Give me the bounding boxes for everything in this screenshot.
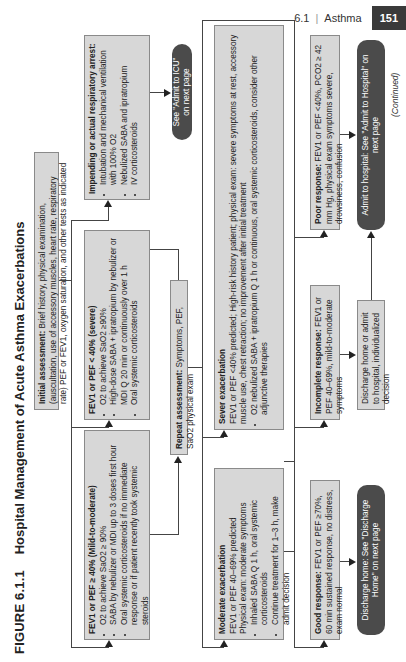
impending-arrest-box: Impending or actual respiratory arrest: … <box>84 35 150 200</box>
impending-arrest-heading: Impending or actual respiratory arrest: <box>88 43 97 194</box>
poor-response-heading: Poor response: <box>314 164 323 224</box>
mild-moderate-item: SABA by nebulizer or MDI up to 3 doses f… <box>109 436 120 625</box>
severe-heading: FEV1 or PEF < 40% (severe) <box>88 305 97 414</box>
severe-box: FEV1 or PEF < 40% (severe) O2 to achieve… <box>84 230 150 420</box>
severe-exacerbation-box: Sever exacerbation FEV1 or PEF <40% pred… <box>214 25 284 430</box>
mild-moderate-heading: FEV1 or PEF ≥ 40% (Mild-to-moderate) <box>88 485 97 634</box>
arrow-icon <box>320 640 328 647</box>
good-response-heading: Good response: <box>314 571 323 634</box>
arrow-icon <box>220 640 228 647</box>
initial-assessment-box: Initial assessment: Brief history, physi… <box>34 152 59 410</box>
admit-icu-terminal: See "Admit to ICU" on next page <box>172 44 192 140</box>
figure-caption: Hospital Management of Acute Asthma Exac… <box>12 222 27 555</box>
connector <box>202 20 294 21</box>
arrow-icon <box>105 420 113 427</box>
arrow-icon <box>174 456 182 463</box>
incomplete-response-heading: Incomplete response: <box>314 329 323 414</box>
repeat-assessment-heading: Repeat assessment: <box>175 370 184 449</box>
connector <box>294 647 324 648</box>
discharge-home-terminal: Discharge home: See "Discharge Home" on … <box>357 485 385 635</box>
figure-label: FIGURE 6.1.1 <box>12 570 27 654</box>
severe-exacerbation-line: FEV1 or PEF <40% predicted; High-risk hi… <box>229 35 249 424</box>
moderate-exacerbation-box: Moderate exacerbation FEV1 or PEF 40–69%… <box>214 468 284 640</box>
severe-item: Oral systemic corticosteroids <box>130 236 141 405</box>
initial-assessment-heading: Initial assessment: <box>38 331 47 404</box>
arrow-icon <box>349 131 356 139</box>
continued-label: (Continued) <box>390 73 400 117</box>
mild-moderate-box: FEV1 or PEF ≥ 40% (Mild-to-moderate) O2 … <box>84 430 150 640</box>
poor-response-box: Poor response: FEV1 or PEF <40%, PCO2 ≥ … <box>310 35 340 230</box>
connector <box>294 20 295 648</box>
connector <box>178 463 179 535</box>
arrow-icon <box>320 230 328 237</box>
connector <box>188 367 202 368</box>
connector <box>150 534 178 535</box>
flowchart: FIGURE 6.1.1 Hospital Management of Acut… <box>0 0 406 662</box>
discharge-or-admit-text: Discharge home or admit to hospital, ind… <box>361 313 391 404</box>
moderate-exacerbation-item: Continue treatment for 1–3 h, make admit… <box>271 474 292 625</box>
impending-arrest-item: IV corticosteroids <box>130 41 141 185</box>
connector <box>150 92 165 93</box>
mild-moderate-item: Oral systemic corticosteroids if no imme… <box>120 436 152 625</box>
connector <box>71 220 72 648</box>
impending-arrest-item: Intubation and mechanical ventilation wi… <box>99 41 120 185</box>
severe-item: High-dose SABA + ipratropium by nebulize… <box>109 236 130 405</box>
arrow-icon <box>349 351 356 359</box>
connector <box>294 427 324 428</box>
arrow-icon <box>320 420 328 427</box>
moderate-exacerbation-item: Inhaled SABA Q 1 h, oral systemic cortic… <box>250 474 271 625</box>
connector <box>202 437 224 438</box>
good-response-box: Good response: FEV1 or PEF ≥70%, 60 min … <box>310 480 340 640</box>
moderate-exacerbation-line: Physical exam: moderate symptoms <box>239 503 248 635</box>
connector <box>108 207 109 221</box>
discharge-home-text: Discharge home: See "Discharge Home" on … <box>361 493 382 627</box>
arrow-icon <box>105 640 113 647</box>
figure-title: FIGURE 6.1.1 Hospital Management of Acut… <box>12 222 27 654</box>
severe-exacerbation-item: O2 nebulized SABA + ipratropium Q 1 h or… <box>250 31 271 415</box>
connector <box>178 249 179 280</box>
connector <box>71 220 109 221</box>
arrow-icon <box>367 231 375 238</box>
arrow-icon <box>104 200 112 207</box>
arrow-icon <box>164 89 171 97</box>
admit-hospital-text: Admit to hospital: See "Admit to Hospita… <box>361 48 382 222</box>
connector <box>202 20 203 648</box>
connector <box>202 647 224 648</box>
connector <box>284 551 294 552</box>
connector <box>71 647 109 648</box>
admit-hospital-terminal: Admit to hospital: See "Admit to Hospita… <box>357 40 385 230</box>
connector <box>150 249 178 250</box>
incomplete-response-box: Incomplete response: FEV1 or PEF 40–69%,… <box>310 285 340 420</box>
connector <box>284 461 294 462</box>
connector <box>294 237 324 238</box>
impending-arrest-item: Nebulized SABA and ipratropium <box>120 41 131 185</box>
admit-icu-text: See "Admit to ICU" on next page <box>172 52 193 132</box>
connector <box>59 280 71 281</box>
moderate-exacerbation-line: FEV1 or PEF 40–69% predicted <box>229 517 238 634</box>
severe-item: O2 to achieve SaO2 ≥90% <box>99 236 110 405</box>
repeat-assessment-box: Repeat assessment: Symptoms, PEF, SaO2 p… <box>170 280 188 455</box>
connector <box>71 427 109 428</box>
moderate-exacerbation-heading: Moderate exacerbation <box>218 545 227 634</box>
severe-exacerbation-heading: Sever exacerbation <box>218 349 227 424</box>
arrow-icon <box>220 430 228 437</box>
discharge-or-admit-box: Discharge home or admit to hospital, ind… <box>357 300 385 410</box>
connector <box>371 238 372 300</box>
arrow-icon <box>349 558 356 566</box>
mild-moderate-item: O2 to achieve SaO2 ≥ 90% <box>99 436 110 625</box>
